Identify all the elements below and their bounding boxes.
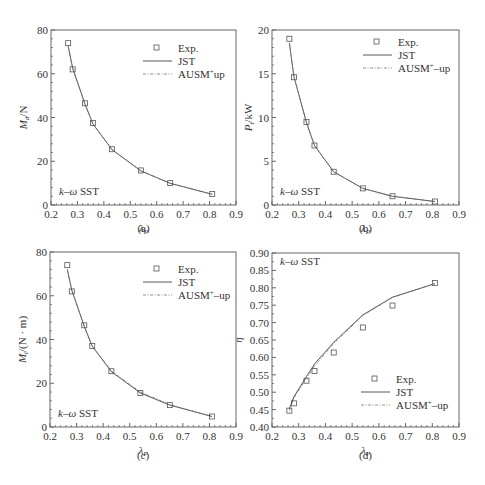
exp-marker — [312, 368, 317, 373]
model-annotation: k–ω SST — [59, 185, 99, 197]
legend-label: Exp. — [396, 373, 417, 385]
legend-marker-icon — [154, 45, 159, 50]
figure-grid: 0.20.30.40.50.60.70.80.9020406080Exp.JST… — [0, 0, 485, 485]
plot-frame — [272, 30, 459, 205]
y-tick-label: 0.60 — [250, 351, 270, 363]
y-tick-label: 0.80 — [250, 282, 270, 294]
jst-line — [289, 284, 435, 409]
y-tick-label: 40 — [37, 112, 49, 124]
x-tick-label: 0.8 — [203, 208, 217, 220]
y-tick-label: 40 — [36, 334, 48, 346]
x-tick-label: 0.5 — [345, 430, 359, 442]
y-tick-label: 80 — [37, 24, 49, 36]
x-tick-label: 0.9 — [452, 430, 466, 442]
legend-label: AUSM+up — [178, 68, 225, 80]
x-tick-label: 0.9 — [452, 208, 466, 220]
legend-marker-icon — [154, 266, 159, 271]
y-tick-label: 0.65 — [250, 334, 270, 346]
x-tick-label: 0.5 — [123, 208, 137, 220]
exp-marker — [331, 350, 336, 355]
x-tick-label: 0.4 — [319, 430, 333, 442]
y-tick-label: 15 — [258, 68, 270, 80]
x-tick-label: 0.6 — [150, 208, 164, 220]
x-tick-label: 0.7 — [176, 430, 190, 442]
y-tick-label: 10 — [258, 112, 270, 124]
legend-label: Exp. — [178, 263, 199, 275]
x-tick-label: 0.4 — [96, 430, 110, 442]
panel-caption: (a) — [137, 222, 150, 235]
exp-marker — [432, 280, 437, 285]
legend-label: Exp. — [178, 42, 199, 54]
y-axis-label: η — [232, 337, 244, 342]
exp-marker — [287, 408, 292, 413]
y-tick-label: 0.70 — [250, 317, 270, 329]
y-tick-label: 20 — [258, 24, 270, 36]
x-tick-label: 0.9 — [229, 208, 243, 220]
legend-label: Exp. — [398, 36, 419, 48]
x-tick-label: 0.5 — [123, 430, 137, 442]
x-tick-label: 0.5 — [345, 208, 359, 220]
legend-label: JST — [178, 55, 195, 67]
y-tick-label: 80 — [36, 246, 48, 258]
x-tick-label: 0.8 — [425, 208, 439, 220]
chart-panel-d: 0.20.30.40.50.60.70.80.90.400.450.500.55… — [232, 247, 466, 462]
legend: Exp.JSTAUSM+–up — [363, 36, 451, 74]
exp-marker — [287, 36, 292, 41]
y-tick-label: 0.75 — [250, 299, 270, 311]
x-tick-label: 0.8 — [425, 430, 439, 442]
y-tick-label: 0.55 — [250, 369, 270, 381]
x-tick-label: 0.7 — [176, 208, 190, 220]
y-tick-label: 0 — [264, 199, 270, 211]
x-tick-label: 0.3 — [71, 208, 85, 220]
model-annotation: k–ω SST — [280, 255, 320, 267]
exp-marker — [65, 263, 70, 268]
y-axis-label: Pt/kW — [242, 103, 256, 132]
x-tick-label: 0.3 — [70, 430, 84, 442]
exp-marker — [66, 41, 71, 46]
x-tick-label: 0.4 — [319, 208, 333, 220]
legend-label: AUSM+–up — [398, 62, 451, 74]
legend-label: JST — [396, 386, 413, 398]
y-tick-label: 0.90 — [250, 247, 270, 259]
x-tick-label: 0.9 — [229, 430, 243, 442]
y-axis-label: Mt/(N · m) — [16, 316, 30, 365]
x-tick-label: 0.7 — [399, 430, 413, 442]
legend-label: AUSM+–up — [178, 289, 231, 301]
chart-panel-c: 0.20.30.40.50.60.70.80.9020406080Exp.JST… — [16, 246, 243, 462]
legend: Exp.JSTAUSM+up — [143, 42, 225, 80]
panel-caption: (b) — [359, 222, 372, 235]
x-tick-label: 0.6 — [372, 430, 386, 442]
y-tick-label: 0 — [43, 199, 49, 211]
x-tick-label: 0.7 — [399, 208, 413, 220]
x-tick-label: 0.4 — [97, 208, 111, 220]
legend-label: AUSM+–up — [396, 399, 449, 411]
x-tick-label: 0.8 — [203, 430, 217, 442]
legend: Exp.JSTAUSM+–up — [143, 263, 231, 301]
y-tick-label: 0.85 — [250, 264, 270, 276]
x-tick-label: 0.3 — [292, 208, 306, 220]
x-tick-label: 0.6 — [149, 430, 163, 442]
chart-panel-b: 0.20.30.40.50.60.70.80.905101520Exp.JSTA… — [242, 24, 466, 236]
plot-frame — [50, 252, 236, 427]
y-tick-label: 0.45 — [250, 404, 270, 416]
y-tick-label: 20 — [37, 155, 49, 167]
model-annotation: k–ω SST — [280, 185, 320, 197]
x-tick-label: 0.6 — [372, 208, 386, 220]
y-tick-label: 5 — [264, 155, 270, 167]
y-tick-label: 0 — [42, 421, 48, 433]
legend-label: JST — [398, 49, 415, 61]
y-tick-label: 0.40 — [250, 421, 270, 433]
legend-label: JST — [178, 276, 195, 288]
legend-marker-icon — [372, 376, 377, 381]
legend: Exp.JSTAUSM+–up — [361, 373, 449, 411]
x-tick-label: 0.3 — [292, 430, 306, 442]
panel-caption: (c) — [137, 449, 150, 462]
exp-marker — [390, 303, 395, 308]
chart-panel-a: 0.20.30.40.50.60.70.80.9020406080Exp.JST… — [17, 24, 243, 236]
panel-caption: (d) — [359, 449, 372, 462]
y-tick-label: 0.50 — [250, 386, 270, 398]
y-tick-label: 60 — [36, 290, 48, 302]
model-annotation: k–ω SST — [58, 407, 98, 419]
plot-frame — [51, 30, 236, 205]
y-tick-label: 20 — [36, 377, 48, 389]
